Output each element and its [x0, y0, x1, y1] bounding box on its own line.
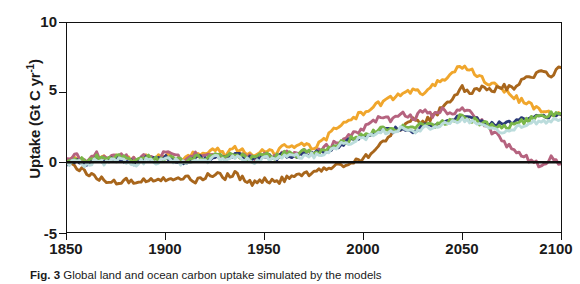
- x-tick-mark-2000: [363, 233, 364, 240]
- series-line-amber: [67, 66, 561, 163]
- figure-panel: Uptake (Gt C yr-1) 10 5 0 -5 1850 1900 1…: [0, 0, 580, 284]
- x-tick-label-1900: 1900: [130, 240, 200, 257]
- figure-caption-text: Global land and ocean carbon uptake simu…: [60, 269, 382, 281]
- y-axis-title: Uptake (Gt C yr-1): [25, 19, 43, 219]
- x-tick-mark-1950: [264, 233, 265, 240]
- series-canvas: [67, 23, 561, 232]
- y-tick-label-0: 0: [0, 154, 57, 169]
- y-tick-mark-minus5: [59, 233, 66, 234]
- x-tick-mark-1850: [66, 233, 67, 240]
- y-tick-label-10: 10: [0, 14, 57, 29]
- y-tick-mark-0: [59, 162, 66, 163]
- x-tick-mark-1900: [165, 233, 166, 240]
- x-tick-label-2050: 2050: [427, 240, 497, 257]
- x-tick-label-1850: 1850: [31, 240, 101, 257]
- plot-area: [66, 22, 562, 233]
- y-axis-title-suffix: ): [26, 59, 43, 64]
- x-tick-label-2100: 2100: [521, 240, 580, 257]
- figure-caption-label: Fig. 3: [30, 269, 60, 281]
- y-tick-mark-10: [59, 22, 66, 23]
- y-tick-label-minus5: -5: [0, 226, 57, 241]
- x-tick-label-2000: 2000: [328, 240, 398, 257]
- series-group: [67, 66, 561, 185]
- figure-caption: Fig. 3 Global land and ocean carbon upta…: [30, 268, 576, 284]
- y-axis-title-exponent: -1: [25, 64, 36, 73]
- x-tick-mark-2050: [462, 233, 463, 240]
- x-tick-label-1950: 1950: [229, 240, 299, 257]
- y-tick-mark-5: [59, 92, 66, 93]
- series-line-cyan: [67, 118, 561, 167]
- y-tick-label-5: 5: [0, 82, 57, 97]
- x-tick-mark-2100: [561, 233, 562, 240]
